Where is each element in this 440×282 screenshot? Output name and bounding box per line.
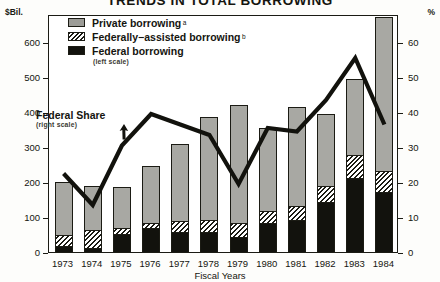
bar-segment-private-1977 <box>172 144 188 223</box>
bar-segment-assisted-1984 <box>376 172 392 193</box>
left-tickmark-600 <box>43 43 48 44</box>
bar-segment-federal-1984 <box>376 193 392 253</box>
bar-segment-federal-1975 <box>114 235 130 253</box>
bar-1975 <box>113 187 131 252</box>
bar-segment-assisted-1981 <box>289 207 305 221</box>
federal-share-annotation-label: Federal Share <box>36 110 105 121</box>
bar-segment-federal-1980 <box>260 224 276 252</box>
federal-share-annotation-scale-note: (right scale) <box>36 121 105 128</box>
left-tick-label-100: 100 <box>6 212 40 223</box>
legend-superscript-b: b <box>242 33 246 40</box>
right-tick-label-10: 10 <box>408 212 440 223</box>
right-tick-label-40: 40 <box>408 107 440 118</box>
right-tickmark-40 <box>398 113 403 114</box>
private-swatch <box>68 18 85 27</box>
bar-segment-assisted-1983 <box>347 156 363 179</box>
bar-segment-assisted-1980 <box>260 212 276 224</box>
x-axis-title: Fiscal Years <box>0 270 440 281</box>
right-axis-unit: % <box>427 7 435 17</box>
x-label-1976: 1976 <box>136 258 165 269</box>
left-tick-label-600: 600 <box>6 37 40 48</box>
right-tickmark-20 <box>398 183 403 184</box>
bar-segment-private-1984 <box>376 17 392 172</box>
legend-label-federal: Federal borrowing <box>92 45 184 57</box>
bar-1979 <box>230 105 248 252</box>
left-tickmark-200 <box>43 183 48 184</box>
bar-segment-private-1978 <box>201 117 217 220</box>
bar-1977 <box>171 144 189 253</box>
bar-segment-federal-1983 <box>347 179 363 253</box>
bar-segment-federal-1978 <box>201 233 217 252</box>
bar-segment-assisted-1982 <box>318 187 334 203</box>
bar-segment-assisted-1974 <box>85 231 101 249</box>
right-tickmark-50 <box>398 78 403 79</box>
bar-segment-assisted-1978 <box>201 221 217 233</box>
bar-1978 <box>200 117 218 252</box>
left-tickmark-500 <box>43 78 48 79</box>
bar-1982 <box>317 114 335 252</box>
assisted-swatch <box>68 32 85 41</box>
x-label-1979: 1979 <box>223 258 252 269</box>
bar-1973 <box>55 182 73 252</box>
right-tick-label-0: 0 <box>408 247 440 258</box>
x-label-1983: 1983 <box>340 258 369 269</box>
bar-segment-federal-1982 <box>318 203 334 252</box>
right-tick-label-60: 60 <box>408 37 440 48</box>
bar-segment-private-1979 <box>231 105 247 224</box>
right-tick-label-30: 30 <box>408 142 440 153</box>
bar-segment-assisted-1977 <box>172 222 188 233</box>
left-tick-label-200: 200 <box>6 177 40 188</box>
bar-segment-assisted-1973 <box>56 236 72 247</box>
legend-item-federal: Federal borrowing <box>68 44 246 57</box>
right-tickmark-30 <box>398 148 403 149</box>
chart-title: TRENDS IN TOTAL BORROWING <box>0 0 440 5</box>
federal-share-annotation: Federal Share (right scale) <box>36 110 105 128</box>
legend-label-private: Private borrowing <box>92 17 181 29</box>
bar-segment-private-1981 <box>289 107 305 207</box>
federal-share-polyline <box>64 58 385 205</box>
arrow-up-icon <box>118 124 130 140</box>
bar-1976 <box>142 166 160 252</box>
bar-1984 <box>375 17 393 252</box>
left-tick-label-0: 0 <box>6 247 40 258</box>
right-tick-label-50: 50 <box>408 72 440 83</box>
bar-segment-assisted-1979 <box>231 224 247 238</box>
bar-segment-private-1983 <box>347 79 363 156</box>
x-label-1977: 1977 <box>165 258 194 269</box>
bar-segment-private-1973 <box>56 182 72 236</box>
right-tick-label-20: 20 <box>408 177 440 188</box>
legend-item-assisted: Federally−assisted borrowing b <box>68 30 246 43</box>
x-label-1978: 1978 <box>194 258 223 269</box>
bar-segment-private-1982 <box>318 114 334 188</box>
x-label-1973: 1973 <box>48 258 77 269</box>
bar-1981 <box>288 107 306 252</box>
bar-segment-federal-1981 <box>289 221 305 253</box>
x-label-1981: 1981 <box>281 258 310 269</box>
legend-scale-note: (left scale) <box>93 58 246 65</box>
left-tickmark-100 <box>43 218 48 219</box>
chart-legend: Private borrowing a Federally−assisted b… <box>68 16 246 65</box>
bar-1974 <box>84 186 102 253</box>
bar-segment-federal-1973 <box>56 247 72 252</box>
left-tickmark-0 <box>43 253 48 254</box>
bar-segment-private-1980 <box>260 128 276 212</box>
right-tickmark-60 <box>398 43 403 44</box>
bar-segment-private-1974 <box>85 186 101 232</box>
bar-segment-federal-1979 <box>231 238 247 252</box>
right-tickmark-10 <box>398 218 403 219</box>
x-label-1975: 1975 <box>106 258 135 269</box>
x-label-1984: 1984 <box>369 258 398 269</box>
legend-item-private: Private borrowing a <box>68 16 246 29</box>
bar-segment-federal-1977 <box>172 233 188 252</box>
left-tick-label-400: 400 <box>6 107 40 118</box>
left-axis-unit: $Bil. <box>5 7 23 17</box>
bar-1980 <box>259 128 277 252</box>
left-tick-label-300: 300 <box>6 142 40 153</box>
x-label-1982: 1982 <box>311 258 340 269</box>
legend-superscript-a: a <box>183 19 187 26</box>
bar-1983 <box>346 79 364 252</box>
left-tick-label-500: 500 <box>6 72 40 83</box>
bar-segment-federal-1976 <box>143 229 159 252</box>
x-label-1980: 1980 <box>252 258 281 269</box>
bar-segment-private-1975 <box>114 187 130 229</box>
